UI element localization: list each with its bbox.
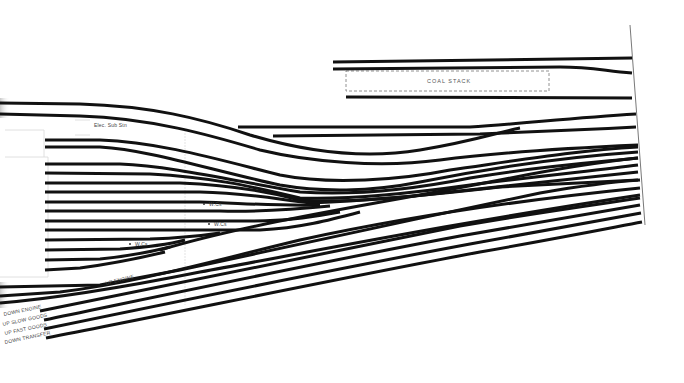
wc-label-2: W.Cs (214, 221, 227, 227)
wc-label-3: W.Cs (135, 241, 148, 247)
wc-label-1: W.Cs (209, 201, 222, 207)
track-siding-7 (45, 202, 320, 205)
building-outline-upper (5, 130, 44, 157)
track-coal-top (333, 58, 632, 62)
wc-marker-3 (129, 243, 131, 245)
track-coal-mid (333, 67, 632, 73)
track-layout-diagram: COAL STACK Elec. Sub Stn W.Cs W.Cs W.Cs … (0, 0, 684, 383)
building-outline-lower (0, 157, 48, 277)
left-building-outlines (0, 120, 90, 277)
wc-marker-1 (203, 203, 205, 205)
elec-sub-stn-label: Elec. Sub Stn (94, 122, 127, 128)
wc-marker-2 (208, 223, 210, 225)
track-siding-8 (45, 206, 330, 211)
track-coal-bottom (346, 97, 632, 98)
coal-stack-label: COAL STACK (427, 78, 471, 84)
tracks-group (0, 58, 642, 338)
track-upper-long (238, 114, 636, 127)
track-siding-11 (45, 233, 220, 240)
track-diag-2 (0, 180, 640, 287)
